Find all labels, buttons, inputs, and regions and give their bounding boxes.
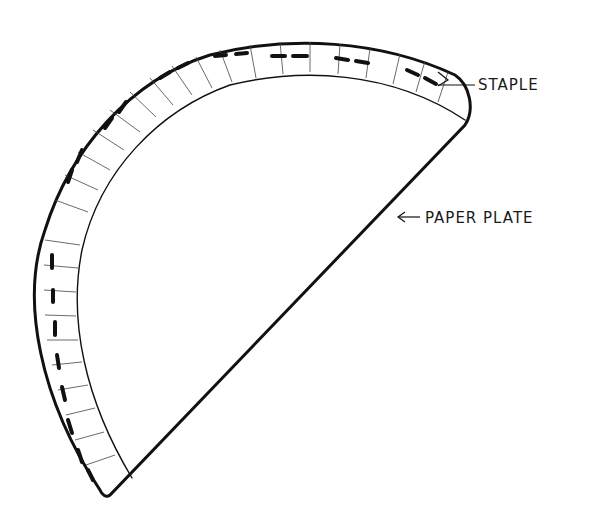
staple-label: STAPLE [478, 76, 539, 94]
rim-ridges [44, 42, 448, 465]
paper-plate-label: PAPER PLATE [425, 209, 534, 227]
plate-inner-rim [77, 75, 465, 478]
staple-leader-hook [438, 72, 448, 86]
plate-outer-edge [34, 43, 470, 496]
paper-plate [34, 43, 470, 496]
callout-lines [398, 72, 475, 222]
